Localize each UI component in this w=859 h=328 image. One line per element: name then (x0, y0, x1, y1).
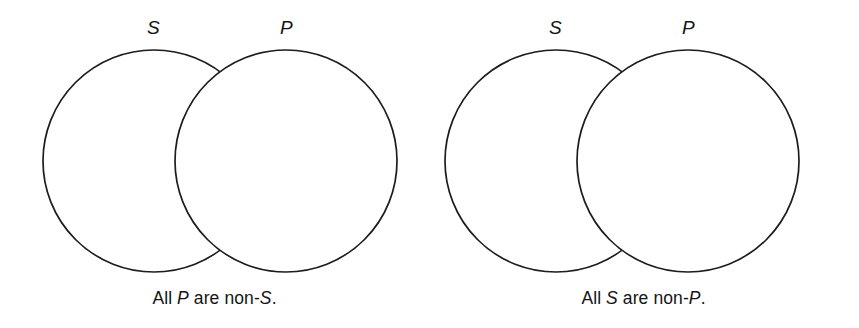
caption-left-subject: P (177, 288, 189, 308)
venn-diagram-right: S P All S are non-P. (429, 0, 858, 328)
caption-right: All S are non-P. (429, 288, 858, 309)
circle-p-left (175, 50, 397, 272)
caption-left-prefix: All (152, 288, 177, 308)
venn-diagram-figure: S P All P are non-S. S P All S are non (0, 0, 859, 328)
caption-right-prefix: All (581, 288, 606, 308)
venn-diagram-left: S P All P are non-S. (0, 0, 429, 328)
caption-left-suffix: . (272, 288, 277, 308)
venn-graphic-right (429, 0, 858, 328)
caption-right-predicate: P (689, 288, 701, 308)
circle-p-right (577, 50, 799, 272)
venn-svg-left (0, 0, 429, 328)
caption-right-suffix: . (701, 288, 706, 308)
circle-label-p-right: P (682, 18, 695, 37)
circle-label-s-left: S (147, 18, 160, 37)
circle-label-s-right: S (549, 18, 562, 37)
caption-left-middle: are non- (189, 288, 260, 308)
caption-left-predicate: S (260, 288, 272, 308)
caption-right-middle: are non- (618, 288, 689, 308)
caption-left: All P are non-S. (0, 288, 429, 309)
caption-right-subject: S (606, 288, 618, 308)
circle-label-p-left: P (280, 18, 293, 37)
venn-svg-right (429, 0, 858, 328)
venn-graphic-left (0, 0, 429, 328)
